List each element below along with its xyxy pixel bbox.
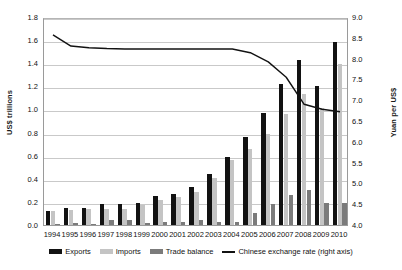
x-axis-tick-label: 2003: [204, 230, 222, 239]
y-axis-left-tick-label: 0.4: [14, 176, 38, 184]
y-axis-right-tick-label: 7.5: [352, 76, 378, 84]
y-axis-left-tick-label: 0.2: [14, 199, 38, 207]
x-axis-tick-label: 2004: [222, 230, 240, 239]
x-axis-tick-label: 2006: [258, 230, 276, 239]
y-axis-right-tick-label: 7.0: [352, 97, 378, 105]
x-axis-tick-label: 1995: [61, 230, 79, 239]
x-axis-tick-label: 2001: [169, 230, 187, 239]
y-axis-left-tick-label: 1.2: [14, 83, 38, 91]
y-axis-right-tick-label: 9.0: [352, 14, 378, 22]
x-axis-tick-label: 1998: [115, 230, 133, 239]
legend-label: Imports: [116, 247, 141, 256]
x-axis-tick-label: 1997: [97, 230, 115, 239]
legend-swatch-line: [222, 251, 235, 253]
legend-item: Trade balance: [150, 247, 214, 256]
x-axis-tick-label: 2002: [187, 230, 205, 239]
x-axis-tick-label: 1999: [133, 230, 151, 239]
chart-container: US$ trillions Yuan per US$ 0.00.20.40.60…: [0, 0, 402, 270]
legend-swatch-imports: [100, 249, 113, 254]
y-axis-left-tick-label: 0.0: [14, 222, 38, 230]
y-axis-left-title: US$ trillions: [5, 78, 14, 148]
legend-item: Imports: [100, 247, 141, 256]
y-axis-right-tick-label: 6.0: [352, 139, 378, 147]
y-axis-left-tick-label: 1.8: [14, 14, 38, 22]
x-axis-tick-label: 2000: [151, 230, 169, 239]
legend-swatch-balance: [150, 249, 163, 254]
y-axis-right-tick-label: 4.0: [352, 222, 378, 230]
y-axis-right-tick-label: 4.5: [352, 201, 378, 209]
y-axis-right-tick-label: 5.5: [352, 160, 378, 168]
y-axis-right-tick-label: 8.0: [352, 56, 378, 64]
chart-legend: ExportsImportsTrade balanceChinese excha…: [0, 247, 402, 256]
y-axis-right-title: Yuan per US$: [389, 78, 398, 148]
legend-label: Trade balance: [166, 247, 214, 256]
x-axis-tick-label: 1994: [43, 230, 61, 239]
x-axis-tick-label: 2005: [240, 230, 258, 239]
x-axis-tick-label: 2010: [330, 230, 348, 239]
exchange-rate-line: [44, 19, 349, 227]
y-axis-left-tick-label: 1.0: [14, 106, 38, 114]
y-axis-right-tick-label: 6.5: [352, 118, 378, 126]
legend-swatch-exports: [49, 249, 62, 254]
x-axis-tick-label: 2007: [276, 230, 294, 239]
y-axis-right-tick-label: 5.0: [352, 180, 378, 188]
x-axis-tick-label: 2008: [294, 230, 312, 239]
y-axis-left-tick-label: 0.8: [14, 130, 38, 138]
legend-label: Chinese exchange rate (right axis): [238, 247, 352, 256]
x-axis-tick-label: 2009: [312, 230, 330, 239]
y-axis-right-tick-label: 8.5: [352, 35, 378, 43]
plot-area: [43, 18, 348, 226]
x-axis-tick-label: 1996: [79, 230, 97, 239]
y-axis-left-tick-label: 1.6: [14, 37, 38, 45]
y-axis-left-tick-label: 1.4: [14, 60, 38, 68]
legend-item: Exports: [49, 247, 90, 256]
y-axis-left-tick-label: 0.6: [14, 153, 38, 161]
legend-label: Exports: [65, 247, 90, 256]
legend-item: Chinese exchange rate (right axis): [222, 247, 352, 256]
